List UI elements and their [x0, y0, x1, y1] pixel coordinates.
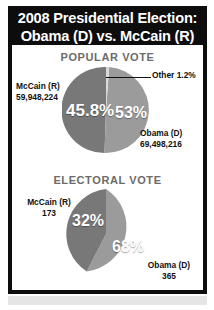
popular-vote-heading: POPULAR VOTE [12, 51, 203, 63]
popular-obama-callout: Obama (D) 69,498,216 [140, 128, 182, 149]
electoral-vote-heading: ELECTORAL VOTE [12, 174, 203, 186]
electoral-obama-name: Obama (D) [143, 260, 195, 271]
electoral-obama-callout: Obama (D) 365 [143, 260, 195, 281]
electoral-obama-votes: 365 [143, 271, 195, 282]
popular-other-callout: Other 1.2% [152, 70, 196, 81]
popular-obama-votes: 69,498,216 [140, 139, 182, 150]
electoral-mccain-name: McCain (R) [21, 197, 77, 208]
electoral-obama-percent: 68% [112, 238, 144, 256]
popular-mccain-callout: McCain (R) 59,948,224 [16, 81, 60, 102]
popular-mccain-name: McCain (R) [16, 81, 60, 92]
electoral-mccain-callout: McCain (R) 173 [21, 197, 77, 218]
title-line-1: 2008 Presidential Election: [8, 9, 207, 27]
popular-obama-percent: 53% [115, 104, 147, 122]
bottom-edge-shadow [8, 296, 207, 305]
electoral-mccain-votes: 173 [21, 208, 77, 219]
popular-mccain-votes: 59,948,224 [16, 92, 60, 103]
other-leader-line [106, 77, 151, 78]
infographic-root: 2008 Presidential Election: Obama (D) vs… [0, 0, 214, 310]
popular-mccain-percent: 45.8% [66, 101, 114, 121]
title-line-2: Obama (D) vs. McCain (R) [8, 27, 207, 45]
popular-obama-name: Obama (D) [140, 128, 182, 139]
page-title: 2008 Presidential Election: Obama (D) vs… [8, 6, 207, 46]
